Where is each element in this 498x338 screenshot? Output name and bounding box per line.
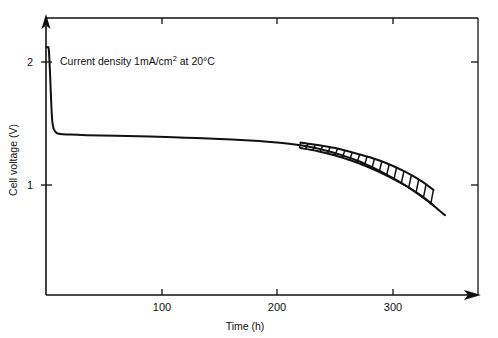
hatch-rung	[401, 171, 404, 184]
annotation-prefix: Current density 1mA/cm	[60, 55, 173, 67]
hatch-rung	[431, 190, 434, 204]
cell-voltage-curve	[47, 47, 445, 215]
y-tick-label-1: 1	[27, 179, 33, 191]
chart-canvas: 2 1 100 200 300 Time (h) Cell voltage (V…	[0, 0, 498, 338]
top-axis-ticks	[162, 18, 393, 24]
x-axis-ticks	[162, 289, 393, 295]
hatch-rung	[423, 184, 426, 198]
right-axis-ticks	[471, 62, 478, 185]
x-tick-label-100: 100	[153, 301, 171, 313]
current-density-annotation: Current density 1mA/cm2 at 20°C	[60, 54, 215, 67]
hatch-rung	[409, 175, 412, 188]
annotation-suffix: at 20°C	[177, 55, 215, 67]
y-tick-label-2: 2	[27, 56, 33, 68]
hatch-rung	[416, 179, 419, 193]
x-tick-label-300: 300	[384, 301, 402, 313]
x-axis-title: Time (h)	[226, 320, 265, 332]
x-axis	[46, 290, 481, 300]
x-tick-label-200: 200	[268, 301, 286, 313]
y-axis-title: Cell voltage (V)	[7, 124, 19, 196]
chart-figure: 2 1 100 200 300 Time (h) Cell voltage (V…	[0, 0, 498, 338]
